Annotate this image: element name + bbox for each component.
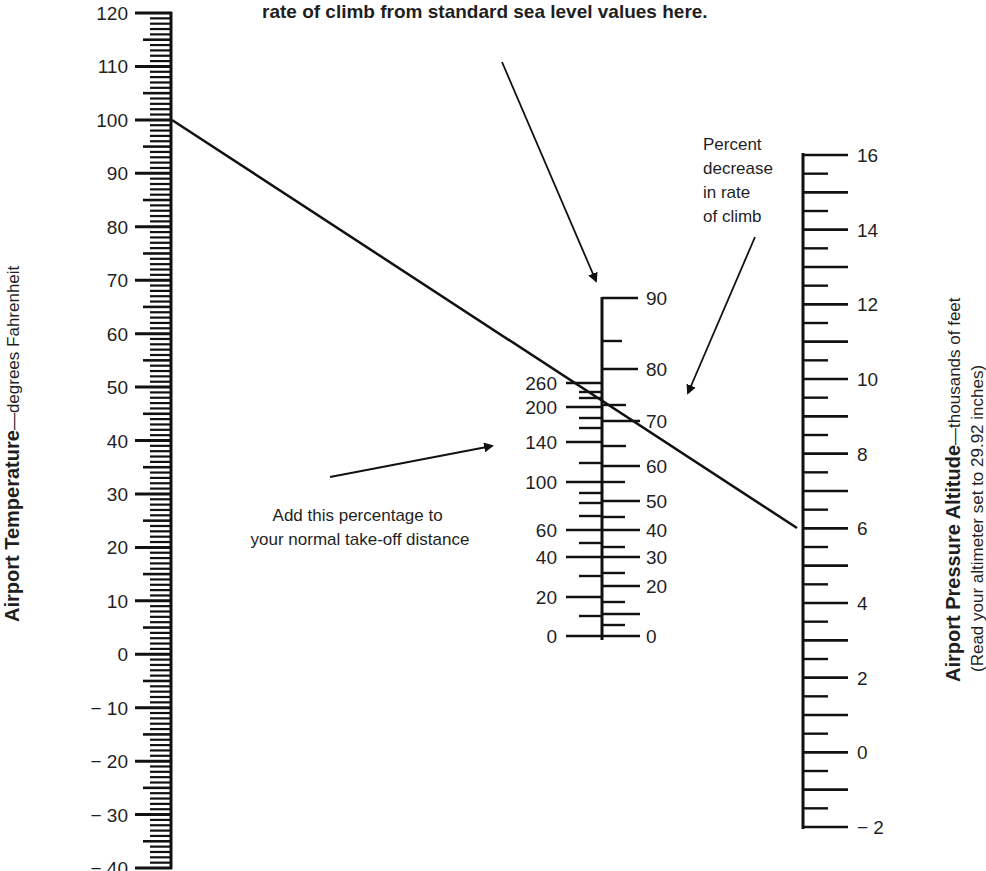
arrow-takeoff-note bbox=[330, 446, 492, 477]
tick-label: 80 bbox=[107, 217, 128, 238]
tick-label: 30 bbox=[646, 547, 667, 568]
tick-label: 50 bbox=[107, 377, 128, 398]
koch-chart-nomogram: rate of climb from standard sea level va… bbox=[0, 0, 986, 871]
tick-label: − 10 bbox=[90, 698, 128, 719]
tick-label: 10 bbox=[107, 591, 128, 612]
arrow-climb-note bbox=[688, 237, 755, 393]
tick-label: 80 bbox=[646, 359, 667, 380]
tick-label: 200 bbox=[525, 397, 557, 418]
tick-label: 60 bbox=[536, 520, 557, 541]
temperature-scale: 1201101009080706050403020100− 10− 20− 30… bbox=[90, 3, 172, 871]
tick-label: 6 bbox=[857, 518, 868, 539]
altitude-ticks bbox=[803, 155, 848, 827]
temperature-axis-title: Airport Temperature—degrees Fahrenheit bbox=[1, 265, 23, 622]
altitude-axis-title: Airport Pressure Altitude—thousands of f… bbox=[942, 297, 964, 682]
tick-label: 50 bbox=[646, 491, 667, 512]
climb-percent-labels: 90807060504030200 bbox=[646, 288, 667, 647]
tick-label: 4 bbox=[857, 593, 868, 614]
tick-label: 14 bbox=[857, 220, 879, 241]
tick-label: 60 bbox=[646, 456, 667, 477]
tick-label: 16 bbox=[857, 145, 878, 166]
temperature-ticks bbox=[135, 13, 172, 868]
tick-label: 110 bbox=[98, 56, 128, 77]
tick-label: 12 bbox=[857, 294, 878, 315]
tick-label: 0 bbox=[646, 626, 657, 647]
takeoff-note: Add this percentage to your normal take-… bbox=[251, 506, 470, 549]
pressure-altitude-scale: 1614121086420− 2 bbox=[803, 145, 884, 838]
tick-label: − 20 bbox=[90, 751, 128, 772]
tick-label: 30 bbox=[107, 484, 128, 505]
tick-label: 40 bbox=[107, 431, 128, 452]
tick-label: 10 bbox=[857, 369, 878, 390]
tick-label: 8 bbox=[857, 444, 868, 465]
tick-label: 260 bbox=[525, 373, 557, 394]
climb-note: Percent decrease in rate of climb bbox=[703, 135, 778, 226]
tick-label: 100 bbox=[525, 472, 557, 493]
tick-label: 90 bbox=[107, 163, 128, 184]
tick-label: 0 bbox=[546, 626, 557, 647]
arrow-top-note bbox=[502, 62, 596, 281]
tick-label: 100 bbox=[96, 110, 128, 131]
tick-label: 140 bbox=[525, 432, 557, 453]
tick-label: − 40 bbox=[90, 858, 128, 871]
tick-label: 70 bbox=[646, 411, 667, 432]
altitude-tick-labels: 1614121086420− 2 bbox=[857, 145, 884, 838]
tick-label: − 2 bbox=[857, 817, 884, 838]
tick-label: 20 bbox=[536, 587, 557, 608]
tick-label: 90 bbox=[646, 288, 667, 309]
takeoff-climb-scale: 2602001401006040200 90807060504030200 bbox=[525, 288, 667, 647]
altitude-axis-subtitle: (Read your altimeter set to 29.92 inches… bbox=[968, 365, 986, 672]
tick-label: 60 bbox=[107, 324, 128, 345]
temperature-tick-labels: 1201101009080706050403020100− 10− 20− 30… bbox=[90, 3, 128, 871]
tick-label: 120 bbox=[96, 3, 128, 24]
top-note-text: rate of climb from standard sea level va… bbox=[262, 1, 708, 22]
tick-label: 0 bbox=[117, 644, 128, 665]
tick-label: − 30 bbox=[90, 805, 128, 826]
tick-label: 2 bbox=[857, 668, 868, 689]
tick-label: 40 bbox=[646, 520, 667, 541]
tick-label: 70 bbox=[107, 270, 128, 291]
takeoff-percent-labels: 2602001401006040200 bbox=[525, 373, 557, 647]
tick-label: 20 bbox=[107, 537, 128, 558]
tick-label: 0 bbox=[857, 742, 868, 763]
example-line bbox=[172, 120, 797, 528]
tick-label: 20 bbox=[646, 576, 667, 597]
tick-label: 40 bbox=[536, 547, 557, 568]
